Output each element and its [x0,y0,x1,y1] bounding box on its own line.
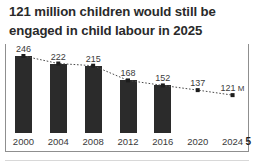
page-title: 121 million children would still be enga… [9,2,251,40]
data-marker-2004 [56,62,60,66]
chart-slide: 121 million children would still be enga… [0,0,258,165]
value-label-2008: 215 [86,54,101,64]
value-label-2020: 137 [190,78,205,88]
data-marker-2020 [196,88,200,92]
value-label-2024: 121 M [221,83,245,93]
value-label-2012: 168 [120,68,135,78]
x-axis-label-2016: 2016 [152,136,173,147]
chart-frame: 246222215168152137121 M 2000200420082012… [5,44,249,152]
data-marker-2008 [91,64,95,68]
title-line-1: 121 million children would still be [9,2,251,21]
trend-line-layer [6,44,250,133]
plot-area: 246222215168152137121 M [6,44,250,133]
value-label-2016: 152 [155,73,170,83]
x-axis-label-2012: 2012 [117,136,138,147]
unit-suffix: M [236,84,245,93]
data-marker-2016 [161,83,165,87]
page-number: 5 [245,136,251,147]
x-axis-label-2004: 2004 [48,136,69,147]
x-axis-label-2008: 2008 [83,136,104,147]
x-axis-label-2000: 2000 [13,136,34,147]
data-marker-2024 [231,93,235,97]
title-line-2: engaged in child labour in 2025 [9,21,251,40]
axis-baseline [5,151,249,152]
footer-divider [5,160,249,161]
value-label-2000: 246 [16,44,31,54]
x-axis-labels: 2000200420082012201620202024 [6,134,250,152]
data-marker-2000 [21,54,25,58]
x-axis-label-2024: 2024 [222,136,243,147]
value-label-2004: 222 [51,52,66,62]
data-marker-2012 [126,78,130,82]
x-axis-label-2020: 2020 [187,136,208,147]
